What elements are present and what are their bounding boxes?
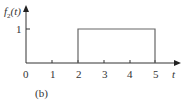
y-axis-label: f2(t) xyxy=(4,6,21,20)
pulse-plot xyxy=(0,0,184,103)
x-axis-arrow-icon xyxy=(174,60,181,66)
y-axis-arrow-icon xyxy=(23,5,29,12)
x-tick-label: 2 xyxy=(76,69,82,80)
x-tick-label: 1 xyxy=(50,69,56,80)
x-tick-label: 4 xyxy=(127,69,133,80)
figure-caption: (b) xyxy=(35,88,48,99)
x-tick-label: 5 xyxy=(153,69,159,80)
y-tick-label: 1 xyxy=(16,24,22,35)
x-tick-label: 0 xyxy=(23,69,29,80)
x-tick-label: 3 xyxy=(102,69,108,80)
x-axis-label: t xyxy=(172,69,175,80)
pulse-waveform xyxy=(78,29,155,63)
